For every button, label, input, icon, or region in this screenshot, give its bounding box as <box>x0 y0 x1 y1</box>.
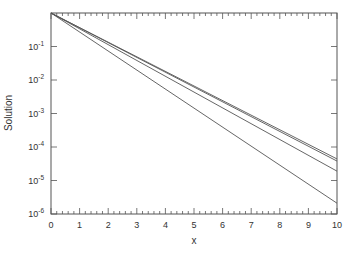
x-axis-label: x <box>192 235 197 246</box>
y-tick-label: 10-3 <box>28 107 44 119</box>
x-tick-label: 9 <box>306 220 311 230</box>
x-tick-label: 10 <box>332 220 342 230</box>
data-series <box>51 13 337 203</box>
series-line-solution-4 <box>51 13 337 203</box>
x-tick-label: 3 <box>134 220 139 230</box>
x-tick-label: 7 <box>249 220 254 230</box>
y-tick-label: 10-4 <box>28 140 44 152</box>
x-tick-label: 0 <box>48 220 53 230</box>
x-tick-label: 5 <box>191 220 196 230</box>
plot-border <box>51 13 337 214</box>
x-tick-label: 6 <box>220 220 225 230</box>
series-line-solution-3 <box>51 13 337 171</box>
y-tick-label: 10-2 <box>28 73 44 85</box>
y-tick-label: 10-6 <box>28 207 44 219</box>
y-axis-ticks: 10-110-210-310-410-510-6 <box>28 40 337 220</box>
x-tick-label: 8 <box>277 220 282 230</box>
y-tick-label: 10-1 <box>28 40 44 52</box>
x-tick-label: 1 <box>77 220 82 230</box>
series-line-solution-2 <box>51 13 337 161</box>
plot-frame <box>51 13 337 214</box>
y-tick-label: 10-5 <box>28 174 44 186</box>
x-tick-label: 2 <box>106 220 111 230</box>
x-axis-ticks: 012345678910 <box>48 13 342 230</box>
y-axis-label: Solution <box>3 95 14 131</box>
chart: 012345678910 10-110-210-310-410-510-6 x … <box>0 0 355 260</box>
x-tick-label: 4 <box>163 220 168 230</box>
